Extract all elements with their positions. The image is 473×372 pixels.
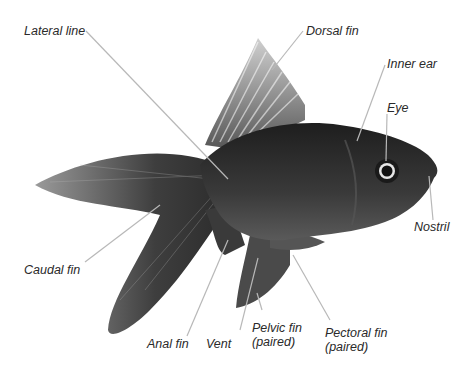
eye-shape xyxy=(375,159,399,183)
label-pectoral-fin-line1: Pectoral fin xyxy=(325,326,388,340)
label-pelvic-fin-line2: (paired) xyxy=(252,335,302,349)
goldfish-illustration xyxy=(0,0,473,372)
label-eye: Eye xyxy=(387,101,409,115)
label-anal-fin: Anal fin xyxy=(147,337,189,351)
goldfish-diagram: Lateral line Dorsal fin Inner ear Eye No… xyxy=(0,0,473,372)
label-pectoral-fin-line2: (paired) xyxy=(325,340,388,354)
label-pelvic-fin: Pelvic fin (paired) xyxy=(252,321,302,349)
label-caudal-fin: Caudal fin xyxy=(24,263,80,277)
label-dorsal-fin: Dorsal fin xyxy=(306,24,359,38)
label-nostril: Nostril xyxy=(414,220,449,234)
label-pectoral-fin: Pectoral fin (paired) xyxy=(325,326,388,354)
body-shape xyxy=(200,123,437,240)
label-vent: Vent xyxy=(206,337,231,351)
label-inner-ear: Inner ear xyxy=(387,57,437,71)
label-pelvic-fin-line1: Pelvic fin xyxy=(252,321,302,335)
label-lateral-line: Lateral line xyxy=(24,24,85,38)
